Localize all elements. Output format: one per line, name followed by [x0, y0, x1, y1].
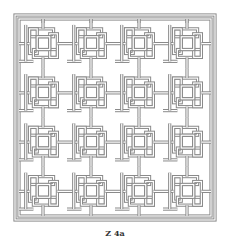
motif-center — [85, 37, 97, 50]
motif-center — [85, 184, 97, 197]
motif-center — [181, 135, 193, 148]
motif-center — [181, 86, 193, 99]
motif-center — [85, 135, 97, 148]
motif-center — [133, 86, 145, 99]
motif-center — [181, 37, 193, 50]
motif-center — [37, 184, 49, 197]
motif-center — [133, 135, 145, 148]
outer-frame — [15, 15, 215, 220]
motif-center — [133, 184, 145, 197]
motif-center — [37, 37, 49, 50]
figure-caption: Z 4a — [0, 228, 230, 238]
motif-center — [37, 86, 49, 99]
motif-center — [133, 37, 145, 50]
motif-center — [181, 184, 193, 197]
motif-center — [37, 135, 49, 148]
lattice-diagram — [0, 0, 230, 246]
motif-center — [85, 86, 97, 99]
